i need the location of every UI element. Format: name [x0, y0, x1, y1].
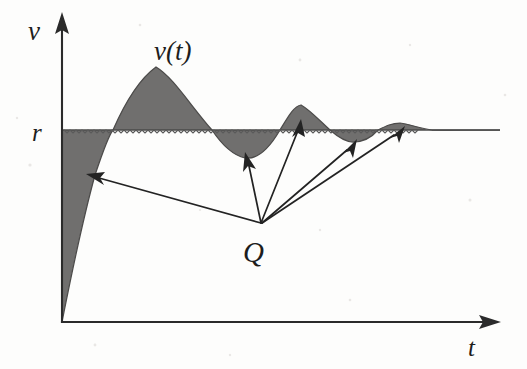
horizontal-axis	[62, 315, 501, 329]
t-axis-label: t	[468, 334, 476, 361]
curve-label: v(t)	[154, 36, 191, 66]
arrow-to-left-undershoot-region	[86, 172, 261, 223]
arrow-to-second-undershoot-region	[262, 139, 357, 223]
response-curve-figure: v r t v(t) Q	[0, 0, 527, 369]
arrow-to-first-undershoot-region	[243, 152, 261, 223]
shaded-error-area	[62, 67, 460, 322]
arrow-to-third-overshoot-region	[262, 126, 405, 223]
reference-level-line	[62, 130, 500, 133]
v-axis-label: v	[28, 16, 40, 46]
figure-container: v r t v(t) Q	[0, 0, 527, 369]
q-source-label: Q	[243, 236, 264, 268]
reference-level-label: r	[32, 119, 42, 146]
